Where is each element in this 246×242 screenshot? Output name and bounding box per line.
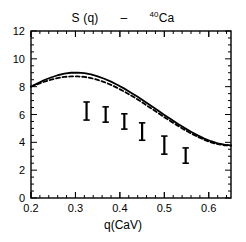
error-bars — [83, 102, 189, 163]
y-tick-label: 4 — [0, 136, 25, 148]
curve-dashed-curve — [31, 76, 231, 145]
y-tick-label: 8 — [0, 81, 25, 93]
error-bar-4 — [161, 136, 167, 154]
y-tick-label: 2 — [0, 164, 25, 176]
error-bar-5 — [182, 148, 188, 163]
x-tick-label: 0.6 — [201, 202, 216, 214]
data-curves — [31, 73, 231, 146]
error-bar-1 — [102, 107, 108, 122]
y-tick-label: 6 — [0, 109, 25, 121]
y-tick-label: 12 — [0, 25, 25, 37]
y-tick-label: 0 — [0, 192, 25, 204]
x-tick-label: 0.2 — [23, 202, 38, 214]
y-tick-label: 10 — [0, 53, 25, 65]
figure-root: S (q)–40Ca 024681012 0.20.30.40.50.6 q(C… — [0, 0, 246, 242]
error-bar-3 — [139, 123, 145, 140]
x-tick-label: 0.5 — [157, 202, 172, 214]
x-tick-label: 0.4 — [112, 202, 127, 214]
axes-frame — [31, 31, 231, 198]
x-tick-label: 0.3 — [68, 202, 83, 214]
curve-solid-curve — [31, 73, 231, 146]
x-axis-title: q(CaV) — [0, 218, 246, 232]
error-bar-2 — [121, 114, 127, 129]
error-bar-0 — [83, 102, 89, 120]
axis-ticks — [31, 31, 231, 198]
